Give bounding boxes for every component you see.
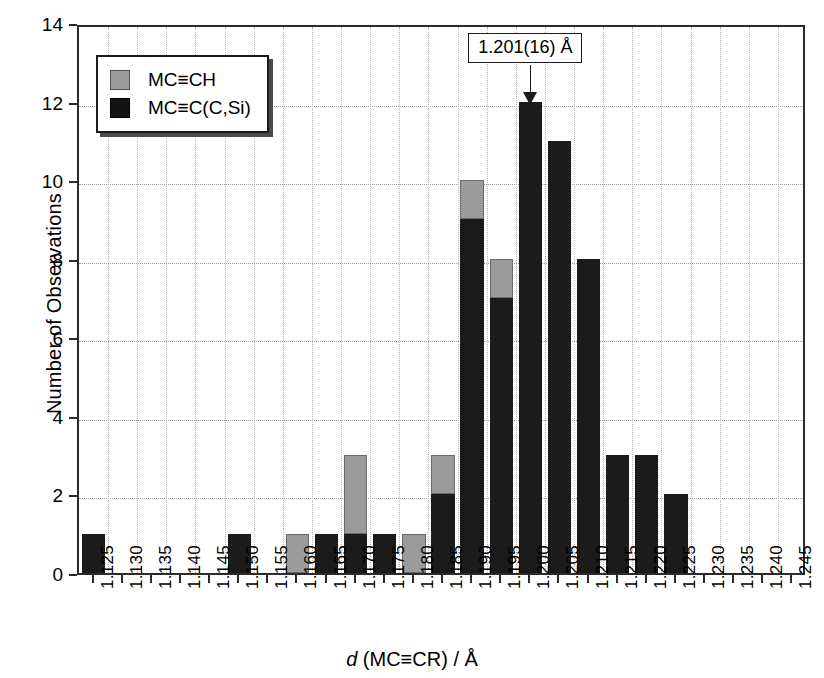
legend-label-mc-c-c-si: MC≡C(C,Si) (148, 97, 251, 119)
x-axis-tick-mark (703, 575, 705, 583)
x-axis-tick-label: 1.175 (390, 545, 407, 589)
x-axis-tick-label: 1.130 (128, 545, 145, 589)
x-axis-title-italic: d (346, 648, 357, 670)
x-axis-tick-mark (645, 575, 647, 583)
y-axis-tick-label: 4 (23, 408, 63, 427)
x-axis-tick-label: 1.245 (797, 545, 814, 589)
x-axis-tick-label: 1.150 (244, 545, 261, 589)
x-axis-tick-mark (92, 575, 94, 583)
y-axis-tick-label: 14 (23, 15, 63, 34)
x-axis-tick-mark (295, 575, 297, 583)
annotation-arrow-line (530, 65, 531, 93)
x-axis-tick-label: 1.170 (361, 545, 378, 589)
x-axis-tick-mark (499, 575, 501, 583)
y-axis-tick-label: 12 (23, 94, 63, 113)
x-axis-tick-mark (208, 575, 210, 583)
x-axis-tick-label: 1.195 (506, 545, 523, 589)
legend: MC≡CH MC≡C(C,Si) (96, 55, 269, 133)
x-axis-tick-label: 1.155 (273, 545, 290, 589)
x-axis-tick-label: 1.215 (623, 545, 640, 589)
y-axis-tick-label: 6 (23, 329, 63, 348)
x-axis-tick-mark (528, 575, 530, 583)
x-axis-tick-mark (441, 575, 443, 583)
x-axis-tick-label: 1.125 (99, 545, 116, 589)
annotation-callout-box: 1.201(16) Å (468, 33, 582, 63)
x-axis-tick-mark (412, 575, 414, 583)
x-axis-tick-mark (557, 575, 559, 583)
x-axis-tick-label: 1.135 (157, 545, 174, 589)
x-axis-tick-label: 1.200 (535, 545, 552, 589)
x-axis-tick-mark (761, 575, 763, 583)
legend-item-mc-ch: MC≡CH (110, 66, 251, 94)
x-axis-tick-mark (616, 575, 618, 583)
legend-item-mc-c-c-si: MC≡C(C,Si) (110, 94, 251, 122)
x-axis-tick-label: 1.235 (739, 545, 756, 589)
y-axis-tick-mark (69, 495, 77, 497)
x-axis-tick-mark (354, 575, 356, 583)
y-axis-tick-mark (69, 24, 77, 26)
legend-label-mc-ch: MC≡CH (148, 69, 216, 91)
x-axis-tick-mark (266, 575, 268, 583)
x-axis-tick-mark (587, 575, 589, 583)
y-axis-tick-mark (69, 338, 77, 340)
y-axis-tick-mark (69, 181, 77, 183)
annotation-arrow-head-icon (523, 92, 537, 105)
x-axis-tick-mark (237, 575, 239, 583)
y-axis-tick-mark (69, 417, 77, 419)
x-axis-tick-mark (179, 575, 181, 583)
x-axis-tick-label: 1.160 (302, 545, 319, 589)
x-axis-tick-label: 1.205 (564, 545, 581, 589)
x-axis-tick-label: 1.230 (710, 545, 727, 589)
x-axis-tick-mark (325, 575, 327, 583)
x-axis-title-upright: (MC≡CR) / Å (363, 648, 478, 670)
y-axis-tick-label: 10 (23, 172, 63, 191)
x-axis-tick-label: 1.210 (594, 545, 611, 589)
y-axis-tick-mark (69, 103, 77, 105)
x-axis-tick-mark (150, 575, 152, 583)
legend-swatch-light-gray-icon (110, 70, 130, 90)
x-axis-tick-label: 1.165 (332, 545, 349, 589)
x-axis-tick-mark (470, 575, 472, 583)
x-axis-tick-mark (732, 575, 734, 583)
y-axis-tick-mark (69, 260, 77, 262)
x-axis-tick-label: 1.185 (448, 545, 465, 589)
x-axis-tick-mark (674, 575, 676, 583)
x-axis-tick-mark (383, 575, 385, 583)
y-axis-tick-mark (69, 574, 77, 576)
histogram-figure: Number of Observations 02468101214 1.201… (0, 0, 824, 678)
x-axis-tick-label: 1.180 (419, 545, 436, 589)
x-axis-tick-label: 1.225 (681, 545, 698, 589)
x-axis-tick-label: 1.145 (215, 545, 232, 589)
legend-swatch-black-icon (110, 98, 130, 118)
x-axis-tick-label: 1.140 (186, 545, 203, 589)
y-axis-tick-label: 2 (23, 486, 63, 505)
x-axis-tick-mark (121, 575, 123, 583)
x-axis-tick-label: 1.220 (652, 545, 669, 589)
y-axis-tick-label: 0 (23, 565, 63, 584)
x-axis-tick-mark (790, 575, 792, 583)
x-axis-tick-label: 1.240 (768, 545, 785, 589)
x-axis-tick-label: 1.190 (477, 545, 494, 589)
x-axis-title: d (MC≡CR) / Å (0, 648, 824, 671)
y-axis-tick-label: 8 (23, 251, 63, 270)
